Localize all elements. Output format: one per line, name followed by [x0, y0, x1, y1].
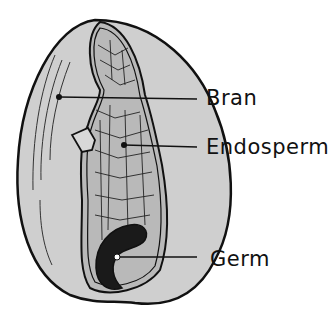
label-germ: Germ	[210, 247, 270, 271]
endosperm-pointer-dot	[121, 142, 127, 148]
bran-pointer-dot	[56, 94, 62, 100]
germ-pointer-dot	[114, 254, 120, 260]
label-bran: Bran	[206, 86, 257, 110]
label-endosperm: Endosperm	[206, 135, 329, 159]
